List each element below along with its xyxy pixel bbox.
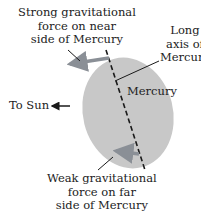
weak-force-label: Weak gravitational force on far side of … [47,172,157,213]
weak-force-label-line1: Weak gravitational [47,172,157,186]
long-axis-label-line1: Long [160,24,201,38]
strong-force-label-line2: force on near [18,20,136,34]
strong-force-label: Strong gravitational force on near side … [18,6,136,47]
long-axis-label: Long axis of Mercury [160,24,201,65]
strong-force-leader [68,50,80,61]
weak-force-label-line3: side of Mercury [47,199,157,213]
strong-force-label-line3: side of Mercury [18,33,136,47]
weak-force-leader [98,157,113,170]
to-sun-label: To Sun [9,99,49,113]
strong-force-arrow [70,58,109,64]
strong-force-label-line1: Strong gravitational [18,6,136,20]
mercury-planet [71,48,185,178]
long-axis-label-line3: Mercury [160,51,201,65]
weak-force-label-line2: force on far [47,186,157,200]
long-axis-label-line2: axis of [160,38,201,52]
mercury-label: Mercury [127,85,177,99]
